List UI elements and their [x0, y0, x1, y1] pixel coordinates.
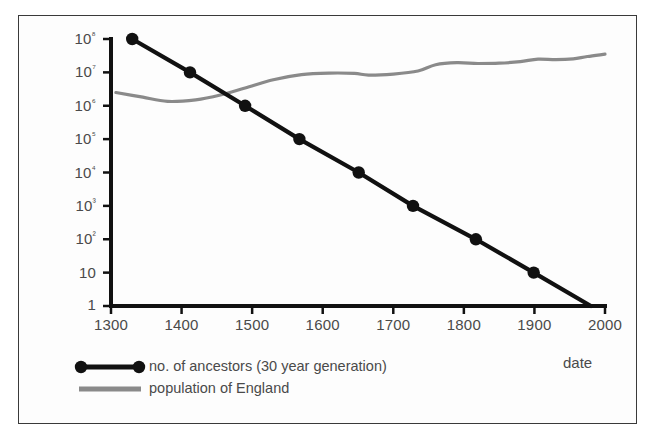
x-tick-label: 1600: [298, 316, 348, 333]
x-tick-label: 1800: [439, 316, 489, 333]
x-tick-label: 1900: [509, 316, 559, 333]
legend-label-population: population of England: [149, 380, 289, 396]
data-point-marker: [184, 66, 196, 78]
x-tick-label: 2000: [580, 316, 630, 333]
y-tick-label: 10⁷: [75, 62, 96, 80]
y-tick-label: 1: [87, 296, 96, 313]
y-tick-label: 10⁸: [74, 29, 96, 47]
legend-swatch-ancestors-dot-right: [133, 361, 145, 373]
legend-swatch-ancestors-dot-left: [75, 361, 87, 373]
legend-swatches: [75, 361, 145, 389]
y-tick-label: 10: [79, 263, 96, 281]
data-point-marker: [239, 100, 251, 112]
x-tick-label: 1300: [86, 316, 136, 333]
x-tick-label: 1500: [227, 316, 277, 333]
data-point-marker: [353, 166, 365, 178]
x-tick-label: 1700: [368, 316, 418, 333]
data-series: [116, 33, 605, 306]
data-point-marker: [470, 233, 482, 245]
y-tick-label: 10²: [75, 229, 96, 247]
data-point-marker: [407, 200, 419, 212]
chart-figure: 11010²10³10⁴10⁵10⁶10⁷10⁸ 130014001500160…: [18, 15, 637, 424]
y-tick-label: 10³: [75, 196, 96, 214]
x-tick-label: 1400: [157, 316, 207, 333]
x-axis-title: date: [563, 354, 592, 371]
data-point-marker: [126, 33, 138, 45]
y-tick-label: 10⁴: [74, 163, 96, 181]
data-point-marker: [293, 133, 305, 145]
y-tick-label: 10⁵: [75, 129, 96, 147]
legend-label-ancestors: no. of ancestors (30 year generation): [149, 358, 387, 374]
data-point-marker: [528, 266, 540, 278]
y-tick-label: 10⁶: [75, 96, 96, 114]
